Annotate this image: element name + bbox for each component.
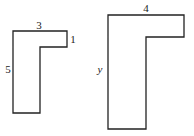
large-l-shape-outline — [108, 15, 184, 129]
large-top-width-label: 4 — [143, 2, 149, 14]
large-l-figure: 4 y — [97, 2, 184, 129]
small-l-figure: 3 1 5 — [5, 19, 76, 113]
small-l-shape-outline — [13, 31, 67, 113]
similar-figures-diagram: 3 1 5 4 y — [0, 0, 194, 136]
small-top-width-label: 3 — [36, 19, 42, 31]
small-left-height-label: 5 — [5, 63, 11, 75]
large-left-height-label: y — [97, 63, 103, 75]
small-notch-height-label: 1 — [70, 33, 76, 45]
